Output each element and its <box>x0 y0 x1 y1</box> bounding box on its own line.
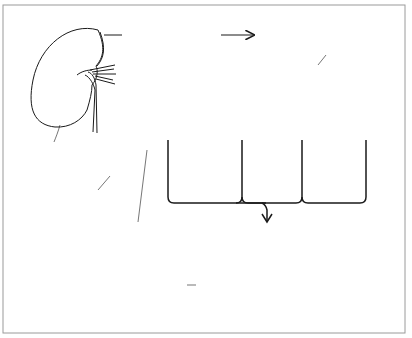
collecting-bracket <box>168 140 366 222</box>
figure-frame <box>3 5 405 333</box>
kidney-allograft-icon <box>31 28 116 142</box>
immunosuppression-leader <box>138 150 147 222</box>
suppressor-leader <box>98 176 110 190</box>
immunoblastic-sarcoma-diagram <box>0 0 412 338</box>
immunoblast-leader <box>318 55 326 65</box>
